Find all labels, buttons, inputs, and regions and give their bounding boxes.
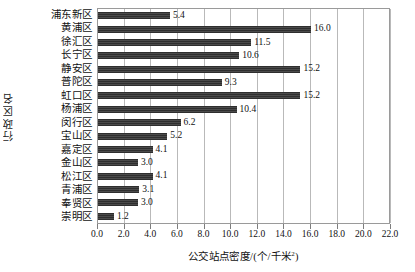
category-label: 闵行区 <box>16 116 95 130</box>
bar-value-label: 10.4 <box>237 105 257 115</box>
category-label: 静安区 <box>16 62 95 76</box>
bar-row: 6.2 <box>98 116 389 129</box>
category-label: 黄浦区 <box>16 22 95 36</box>
bar-row: 3.0 <box>98 196 389 209</box>
bar-row: 4.1 <box>98 143 389 156</box>
bar[interactable] <box>98 66 300 73</box>
category-label: 普陀区 <box>16 76 95 90</box>
x-axis-tick-label: 22.0 <box>382 230 399 240</box>
category-label: 虹口区 <box>16 89 95 103</box>
bar-value-label: 5.4 <box>170 11 185 21</box>
bar[interactable] <box>98 159 138 166</box>
gridline <box>390 9 391 223</box>
bar[interactable] <box>98 106 237 113</box>
x-axis-tick-label: 18.0 <box>328 230 345 240</box>
bar-value-label: 10.6 <box>239 51 259 61</box>
bar-value-label: 11.5 <box>251 38 270 48</box>
y-axis-title-label: 行政区名 <box>1 92 16 141</box>
category-label: 青浦区 <box>16 184 95 198</box>
bar-row: 3.0 <box>98 156 389 169</box>
bar-row: 5.2 <box>98 129 389 142</box>
bar-value-label: 1.2 <box>114 212 129 222</box>
y-axis-title: 行政区名 <box>0 0 16 232</box>
bar[interactable] <box>98 26 311 33</box>
x-axis-tick-label: 12.0 <box>249 230 266 240</box>
bar[interactable] <box>98 186 139 193</box>
bar-value-label: 3.0 <box>138 198 153 208</box>
category-label: 杨浦区 <box>16 103 95 117</box>
category-label: 宝山区 <box>16 130 95 144</box>
category-label: 松江区 <box>16 170 95 184</box>
bar-row: 4.1 <box>98 170 389 183</box>
bar-value-label: 15.2 <box>300 64 320 74</box>
bar-row: 11.5 <box>98 36 389 49</box>
x-axis-tick-label: 6.0 <box>171 230 183 240</box>
bar[interactable] <box>98 146 153 153</box>
x-axis-tick-labels: 0.02.04.06.08.010.012.014.016.018.020.02… <box>97 230 390 244</box>
x-axis-tick-label: 2.0 <box>118 230 130 240</box>
bar-value-label: 6.2 <box>181 118 196 128</box>
bar[interactable] <box>98 12 170 19</box>
x-axis-title-label: 公交站点密度/(个/千米2) <box>188 251 299 262</box>
bar[interactable] <box>98 119 181 126</box>
bar-row: 3.1 <box>98 183 389 196</box>
bar[interactable] <box>98 173 153 180</box>
bar-row: 5.4 <box>98 9 389 22</box>
bar-row: 16.0 <box>98 22 389 35</box>
plot-area: 5.416.011.510.615.29.315.210.46.25.24.13… <box>97 8 390 224</box>
category-label: 浦东新区 <box>16 8 95 22</box>
bar[interactable] <box>98 39 251 46</box>
bar-value-label: 16.0 <box>311 24 331 34</box>
bar[interactable] <box>98 213 114 220</box>
x-axis-title: 公交站点密度/(个/千米2) <box>97 248 390 263</box>
bar-row: 9.3 <box>98 76 389 89</box>
x-axis-tick-label: 8.0 <box>198 230 210 240</box>
bar-row: 10.6 <box>98 49 389 62</box>
x-axis-tick-label: 14.0 <box>275 230 292 240</box>
category-label: 长宁区 <box>16 49 95 63</box>
category-label: 金山区 <box>16 157 95 171</box>
category-label: 崇明区 <box>16 211 95 225</box>
x-axis-tick-label: 20.0 <box>355 230 372 240</box>
bar[interactable] <box>98 79 222 86</box>
bar-row: 15.2 <box>98 63 389 76</box>
bar-row: 15.2 <box>98 89 389 102</box>
bar[interactable] <box>98 199 138 206</box>
x-axis-tick-label: 16.0 <box>302 230 319 240</box>
x-axis-tick-label: 4.0 <box>144 230 156 240</box>
category-axis: 浦东新区黄浦区徐汇区长宁区静安区普陀区虹口区杨浦区闵行区宝山区嘉定区金山区松江区… <box>16 8 95 224</box>
bar-value-label: 3.1 <box>139 185 154 195</box>
bar-value-label: 4.1 <box>153 145 168 155</box>
bar-value-label: 15.2 <box>300 91 320 101</box>
bar-value-label: 3.0 <box>138 158 153 168</box>
category-label: 奉贤区 <box>16 197 95 211</box>
bar-value-label: 4.1 <box>153 171 168 181</box>
x-axis-tick-label: 10.0 <box>222 230 239 240</box>
bar-value-label: 9.3 <box>222 78 237 88</box>
bar[interactable] <box>98 92 300 99</box>
bar-value-label: 5.2 <box>167 131 182 141</box>
bars-layer: 5.416.011.510.615.29.315.210.46.25.24.13… <box>98 9 389 223</box>
bar-row: 1.2 <box>98 210 389 223</box>
bar[interactable] <box>98 52 239 59</box>
bar-row: 10.4 <box>98 103 389 116</box>
x-axis-tick-label: 0.0 <box>91 230 103 240</box>
bar-chart: 行政区名 浦东新区黄浦区徐汇区长宁区静安区普陀区虹口区杨浦区闵行区宝山区嘉定区金… <box>0 0 415 272</box>
bar[interactable] <box>98 133 167 140</box>
category-label: 嘉定区 <box>16 143 95 157</box>
category-label: 徐汇区 <box>16 35 95 49</box>
